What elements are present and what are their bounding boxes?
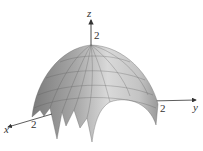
x-axis-tick: 2	[31, 118, 37, 130]
z-axis-label: z	[86, 7, 92, 19]
surface-plot: z 2 y 2 x 2	[0, 0, 203, 151]
y-axis-label: y	[192, 101, 198, 113]
paraboloid-surface	[32, 45, 158, 142]
y-axis-tick: 2	[160, 102, 166, 114]
z-axis-tick: 2	[94, 29, 100, 41]
x-axis	[8, 114, 52, 127]
x-axis-label: x	[3, 123, 9, 135]
